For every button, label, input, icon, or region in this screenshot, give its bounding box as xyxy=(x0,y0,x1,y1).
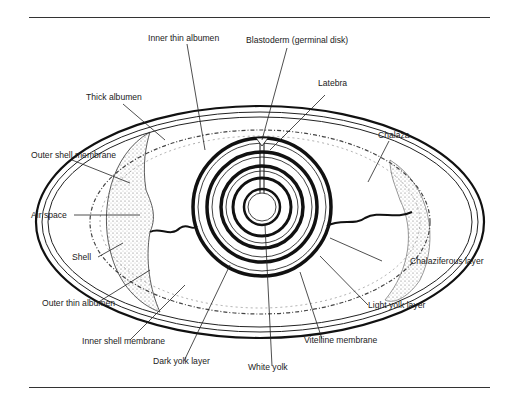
label-air-space: Air space xyxy=(31,210,67,220)
label-inner-shell-membrane: Inner shell membrane xyxy=(82,336,165,346)
egg-diagram xyxy=(0,0,516,394)
label-light-yolk-layer: Light yolk layer xyxy=(368,300,425,310)
label-blastoderm: Blastoderm (germinal disk) xyxy=(246,35,348,45)
chalaza-left xyxy=(150,226,197,232)
label-outer-shell-membrane: Outer shell membrane xyxy=(31,150,116,160)
label-outer-thin-albumen: Outer thin albumen xyxy=(42,298,115,308)
label-vitelline-membrane: Vitelline membrane xyxy=(304,335,377,345)
label-chalaza: Chalaza xyxy=(378,130,410,140)
chalaza-right xyxy=(327,212,412,226)
label-inner-thin-albumen: Inner thin albumen xyxy=(148,33,219,43)
label-shell: Shell xyxy=(72,252,91,262)
label-latebra: Latebra xyxy=(318,78,347,88)
label-thick-albumen: Thick albumen xyxy=(86,92,142,102)
label-white-yolk: White yolk xyxy=(248,362,288,372)
yolk-rings xyxy=(193,138,331,276)
label-dark-yolk-layer: Dark yolk layer xyxy=(153,356,210,366)
label-chalaziferous-layer: Chalaziferous layer xyxy=(410,256,484,266)
